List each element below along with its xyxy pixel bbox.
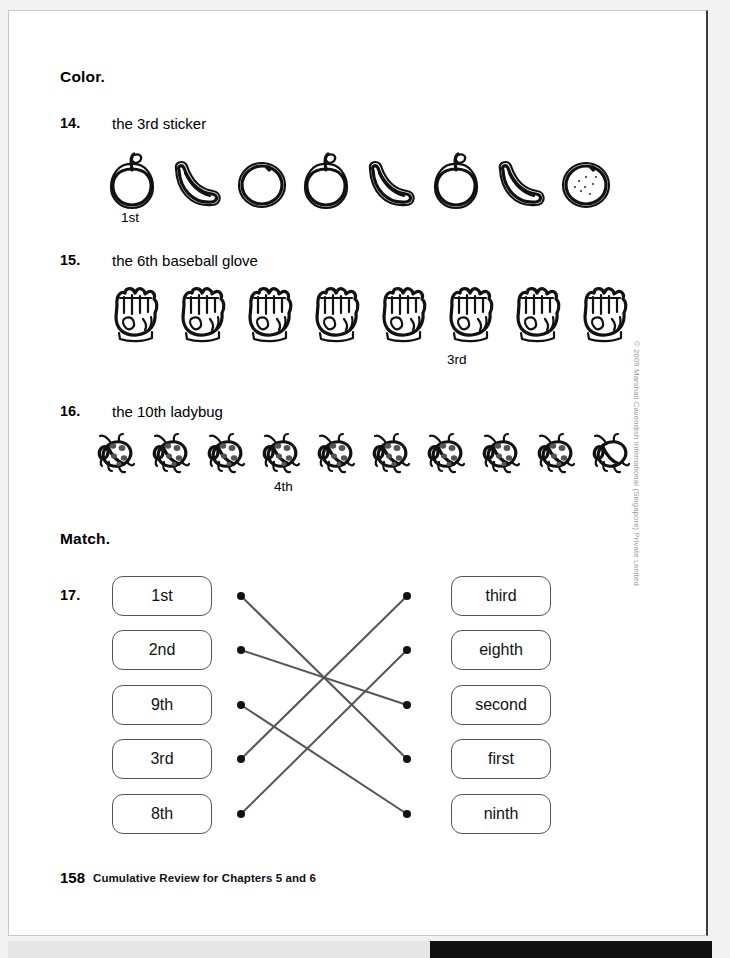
- match-left-option-label: 9th: [151, 696, 173, 714]
- sticker-glove-6[interactable]: [442, 283, 500, 345]
- glove-row: [107, 283, 634, 345]
- question-number-16: 16.: [60, 403, 80, 419]
- match-right-option-label: ninth: [484, 805, 519, 823]
- section-heading-match: Match.: [60, 530, 110, 548]
- match-right-option-label: first: [488, 750, 514, 768]
- match-left-option-5[interactable]: 8th: [112, 794, 212, 834]
- sticker-ladybug-1[interactable]: [97, 433, 141, 477]
- sticker-ladybug-5[interactable]: [317, 433, 361, 477]
- copyright-notice: © 2009 Marshall Cavendish International …: [632, 341, 641, 581]
- sticker-ladybug-9[interactable]: [537, 433, 581, 477]
- sticker-ladybug-4[interactable]: [262, 433, 306, 477]
- footer-title: Cumulative Review for Chapters 5 and 6: [93, 872, 316, 884]
- match-left-option-3[interactable]: 9th: [112, 685, 212, 725]
- sticker-glove-3[interactable]: [241, 283, 299, 345]
- sticker-row: [107, 151, 611, 209]
- match-left-option-label: 8th: [151, 805, 173, 823]
- sticker-ladybug-3[interactable]: [207, 433, 251, 477]
- match-left-option-1[interactable]: 1st: [112, 576, 212, 616]
- sticker-orange-3[interactable]: [237, 151, 287, 209]
- match-connector-lines: [224, 556, 434, 836]
- row-ordinal-label-15: 3rd: [447, 352, 467, 367]
- match-right-option-2[interactable]: eighth: [451, 630, 551, 670]
- sticker-glove-1[interactable]: [107, 283, 165, 345]
- sticker-banana-5[interactable]: [365, 151, 417, 209]
- match-left-option-label: 1st: [151, 587, 172, 605]
- worksheet-page: Color. 14. the 3rd sticker 1st 15. the 6…: [8, 10, 708, 936]
- match-left-option-4[interactable]: 3rd: [112, 739, 212, 779]
- match-right-option-3[interactable]: second: [451, 685, 551, 725]
- sticker-apple-1[interactable]: [107, 151, 157, 209]
- match-left-option-2[interactable]: 2nd: [112, 630, 212, 670]
- question-prompt-15: the 6th baseball glove: [112, 252, 258, 269]
- match-left-option-label: 3rd: [150, 750, 173, 768]
- match-right-option-label: third: [485, 587, 516, 605]
- sticker-banana-7[interactable]: [495, 151, 547, 209]
- sticker-glove-2[interactable]: [174, 283, 232, 345]
- match-right-option-1[interactable]: third: [451, 576, 551, 616]
- sticker-ladybug-7[interactable]: [427, 433, 471, 477]
- sticker-glove-8[interactable]: [576, 283, 634, 345]
- question-number-17: 17.: [60, 587, 80, 603]
- section-heading-color: Color.: [60, 68, 105, 86]
- match-right-option-label: eighth: [479, 641, 523, 659]
- sticker-glove-4[interactable]: [308, 283, 366, 345]
- sticker-banana-2[interactable]: [171, 151, 223, 209]
- question-number-15: 15.: [60, 252, 80, 268]
- sticker-ladybug-6[interactable]: [372, 433, 416, 477]
- page-bottom-black-bar: [430, 941, 712, 958]
- match-right-option-label: second: [475, 696, 527, 714]
- page-number: 158: [60, 869, 85, 886]
- question-prompt-16: the 10th ladybug: [112, 403, 223, 420]
- row-ordinal-label-16: 4th: [274, 479, 293, 494]
- sticker-glove-5[interactable]: [375, 283, 433, 345]
- question-prompt-14: the 3rd sticker: [112, 115, 206, 132]
- question-number-14: 14.: [60, 115, 80, 131]
- row-ordinal-label-14: 1st: [121, 210, 139, 225]
- match-right-option-5[interactable]: ninth: [451, 794, 551, 834]
- sticker-glove-7[interactable]: [509, 283, 567, 345]
- sticker-ladybug-2[interactable]: [152, 433, 196, 477]
- match-left-option-label: 2nd: [149, 641, 176, 659]
- sticker-ladybug-8[interactable]: [482, 433, 526, 477]
- match-right-option-4[interactable]: first: [451, 739, 551, 779]
- sticker-apple-4[interactable]: [301, 151, 351, 209]
- sticker-apple-6[interactable]: [431, 151, 481, 209]
- sticker-ladybug-10[interactable]: [592, 433, 636, 477]
- ladybug-row: [97, 433, 636, 477]
- sticker-orange-8[interactable]: [561, 151, 611, 209]
